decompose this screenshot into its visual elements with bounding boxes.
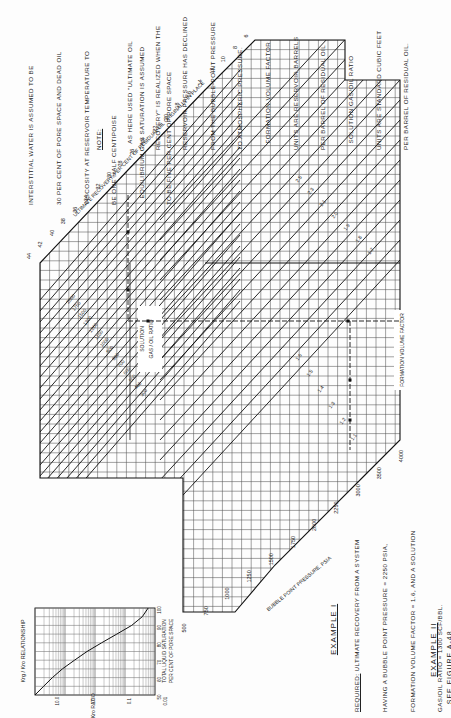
see-figure-reference: SEE FIGURE A-48 [436, 630, 451, 716]
krg-kro-inset-chart: 506070809010010.01.00.10.01Krg / Kro REL… [20, 606, 174, 718]
bubble-point-tick-label: 2000 [311, 519, 317, 531]
bubble-point-tick-label: 1000 [224, 587, 230, 599]
assumption-line: 30 PER CENT OF PORE SPACE AND DEAD OIL [54, 47, 63, 205]
required-line: HAVING A BUBBLE POINT PRESSURE = 2250 PS… [380, 530, 389, 712]
inset-y-tick: 10.0 [55, 696, 60, 705]
bubble-point-tick-label: 1750 [290, 536, 296, 548]
bubble-point-tick-label: 500 [181, 623, 187, 632]
inset-title: Krg / Kro RELATIONSHIP [20, 619, 26, 682]
inset-x-axis-title: PER CENT OF PORE SPACE [169, 619, 174, 683]
gas-oil-ratio-title: SOLUTION [139, 326, 145, 352]
note-line: RECOVERY" IS REALIZED WHEN THE [153, 17, 162, 151]
recovery-tick-label: 40 [49, 230, 55, 236]
fvf-line-label: 1.7 [366, 246, 375, 255]
inset-x-axis-title: TOTAL LIQUID SATURATION [162, 619, 167, 683]
inset-y-tick: 0.01 [163, 696, 168, 705]
inset-y-axis-title: Krg / Kro RATIO [90, 693, 96, 718]
fvf-line-label: 2.1 [318, 198, 327, 207]
bubble-point-tick-label: 1500 [268, 553, 274, 565]
assumption-line: INTERSTITIAL WATER IS ASSUMED TO BE [26, 47, 35, 205]
note-title: NOTE: [94, 17, 103, 151]
fvf-line-label: 2.5 [294, 174, 303, 183]
recovery-tick-label: 38 [60, 218, 66, 224]
gas-oil-ratio-line-label: 1100 [94, 329, 105, 340]
bubble-point-tick-label: 4000 [398, 450, 404, 462]
inset-x-tick: 100 [157, 606, 162, 614]
note-line: PER BARREL OF RESIDUAL OIL. [401, 17, 410, 151]
bubble-point-tick-label: 2250 [333, 501, 339, 513]
fvf-axis-title: FORMATION VOLUME FACTOR [399, 313, 405, 387]
bubble-point-tick-label: 3000 [355, 484, 361, 496]
bubble-point-tick-label: 1250 [246, 570, 252, 582]
note-line: PER BARREL OF RESIDUAL OIL [318, 17, 327, 151]
note-line: FORMATION VOLUME FACTOR [263, 17, 272, 151]
bubble-point-tick-label: 3500 [376, 467, 382, 479]
note-line: RESERVOIR PRESSURE HAS DECLINED [180, 17, 189, 151]
recovery-tick-label: 44 [26, 253, 32, 259]
gas-oil-ratio-line-label: 800 [111, 352, 120, 362]
fvf-line-label: 1.9 [342, 222, 351, 231]
inset-x-tick: 50 [157, 694, 162, 700]
required-line: ULTIMATE RECOVERY FROM A SYSTEM [353, 539, 360, 673]
note-line: TO ATMOSPHERIC PRESSURE. [235, 17, 244, 151]
note-line: SOLUTION GAS/OIL RATIO [346, 17, 355, 151]
scanned-page: 44424038363432302826242220181614121086UL… [0, 0, 451, 718]
note-line: AS HERE USED "ULTIMATE OIL [125, 17, 134, 151]
see-figure-text: SEE FIGURE A-48 [446, 630, 451, 704]
bubble-point-tick-label: 750 [203, 606, 209, 615]
note-line: FROM THE BUBBLE-POINT PRESSURE [208, 17, 217, 151]
inset-y-tick: 0.1 [127, 697, 132, 704]
note-line: UNITS ARE RESERVOIR BARRELS [291, 17, 300, 151]
note-line: UNITS ARE STANDARD CUBIC FEET [374, 17, 383, 151]
gas-oil-ratio-line-label: 300 [139, 388, 148, 398]
gas-oil-ratio-title: GAS / OIL RATIO [148, 319, 154, 358]
required-line: FORMATION VOLUME FACTOR = 1.6, AND A SOL… [408, 530, 417, 712]
definitions-note: NOTE: AS HERE USED "ULTIMATE OIL RECOVER… [76, 17, 429, 151]
required-label: REQUIRED: [353, 674, 360, 712]
recovery-tick-label: 42 [37, 241, 43, 247]
